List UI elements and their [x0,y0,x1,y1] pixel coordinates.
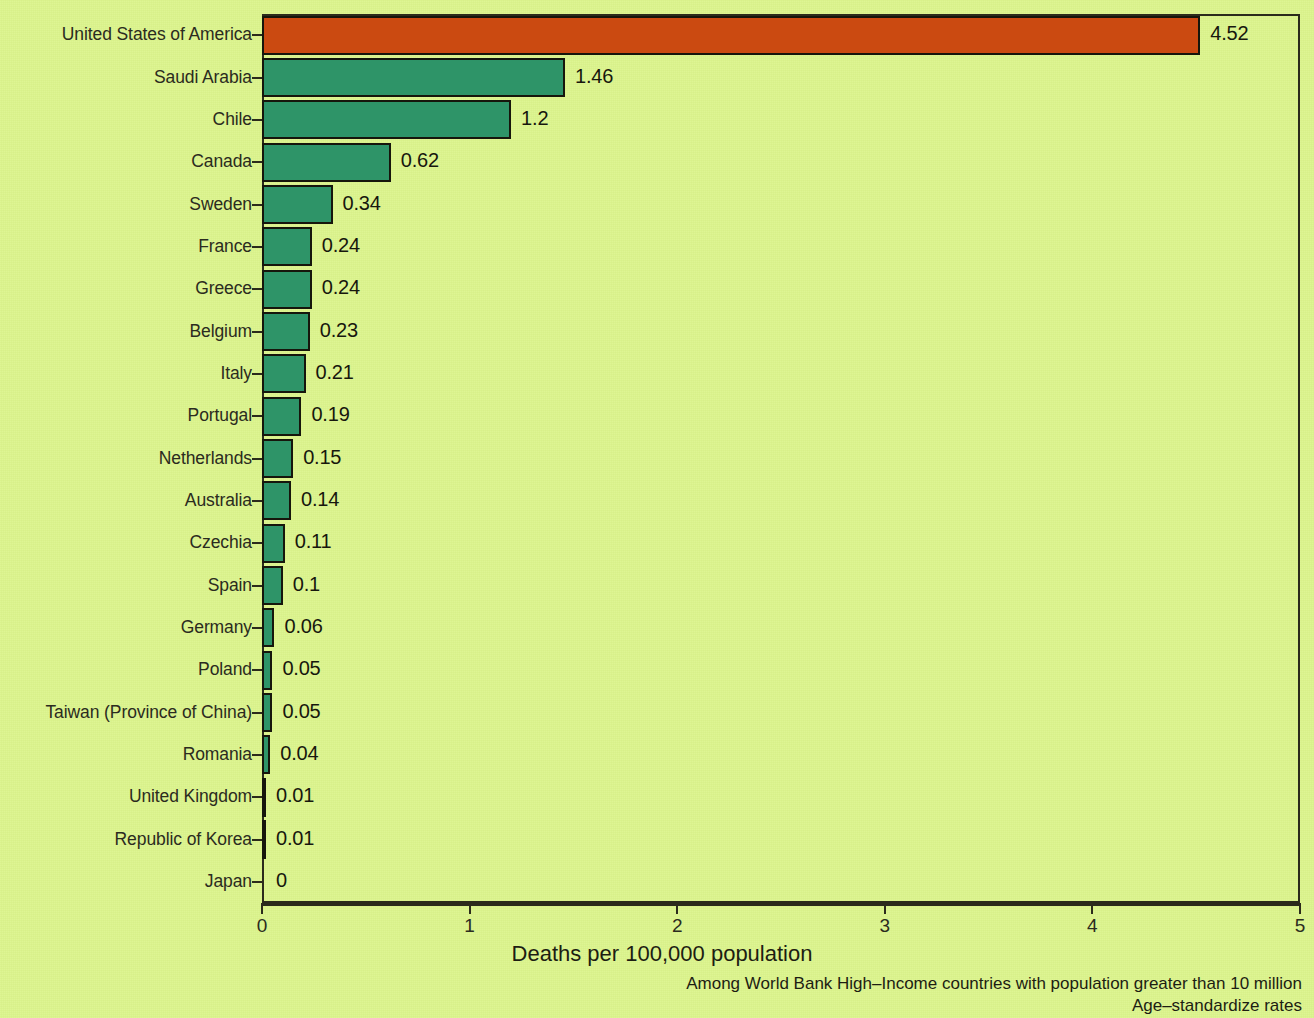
category-label: United States of America [0,24,252,45]
category-label: Australia [0,490,252,511]
y-axis-tick [252,881,262,883]
y-axis-tick [252,373,262,375]
bar[interactable] [262,185,333,224]
bar[interactable] [262,820,266,859]
y-axis-tick [252,542,262,544]
bar[interactable] [262,270,312,309]
x-axis-tick-label: 4 [1087,915,1098,937]
x-axis-title: Deaths per 100,000 population [0,941,1314,967]
y-axis-tick [252,500,262,502]
x-axis-tick [676,903,678,914]
bar-value-label: 1.2 [521,107,548,130]
category-label: Japan [0,871,252,892]
x-axis-tick-label: 1 [464,915,475,937]
chart-title [0,0,1314,4]
category-label: Saudi Arabia [0,67,252,88]
bar-value-label: 0.01 [276,827,314,850]
bar[interactable] [262,524,285,563]
x-axis-tick [1299,903,1301,914]
bar-value-label: 1.46 [575,65,613,88]
bar[interactable] [262,100,511,139]
category-label: Sweden [0,194,252,215]
bar-rows-container: United States of America4.52Saudi Arabia… [0,14,1314,903]
bar-value-label: 0.23 [320,319,358,342]
category-label: Greece [0,278,252,299]
y-axis-tick [252,415,262,417]
bar[interactable] [262,143,391,182]
footnote-age-standardized: Age–standardize rates [1132,996,1302,1016]
bar[interactable] [262,651,272,690]
category-label: Romania [0,744,252,765]
bar[interactable] [262,312,310,351]
x-axis-tick-label: 2 [672,915,683,937]
bar[interactable] [262,566,283,605]
category-label: Canada [0,151,252,172]
y-axis-tick [252,246,262,248]
y-axis-tick [252,712,262,714]
chart-canvas: United States of America4.52Saudi Arabia… [0,0,1314,1018]
category-label: Czechia [0,532,252,553]
bar-highlight[interactable] [262,16,1200,55]
bar-value-label: 0.06 [284,615,322,638]
bar-value-label: 0.62 [401,149,439,172]
bar[interactable] [262,735,270,774]
bar[interactable] [262,439,293,478]
y-axis-tick [252,161,262,163]
x-axis-tick-label: 0 [257,915,268,937]
footnote-population-scope: Among World Bank High–Income countries w… [686,974,1302,994]
bar[interactable] [262,608,274,647]
bar[interactable] [262,693,272,732]
y-axis-tick [252,839,262,841]
bar-value-label: 0.24 [322,276,360,299]
bar-value-label: 0.19 [311,403,349,426]
bar-value-label: 0.01 [276,784,314,807]
category-label: Chile [0,109,252,130]
x-axis-tick [261,903,263,914]
category-label: Netherlands [0,448,252,469]
bar-value-label: 0.24 [322,234,360,257]
category-label: Spain [0,575,252,596]
category-label: Italy [0,363,252,384]
bar-value-label: 0.1 [293,573,320,596]
category-label: Portugal [0,405,252,426]
category-label: Poland [0,659,252,680]
bar[interactable] [262,58,565,97]
y-axis-tick [252,585,262,587]
y-axis-tick [252,627,262,629]
category-label: United Kingdom [0,786,252,807]
bar[interactable] [262,397,301,436]
bar-value-label: 0.11 [295,530,332,553]
bar[interactable] [262,227,312,266]
bar-value-label: 0.04 [280,742,318,765]
y-axis-tick [252,458,262,460]
category-label: Germany [0,617,252,638]
y-axis-tick [252,34,262,36]
x-axis-tick [469,903,471,914]
bar[interactable] [262,481,291,520]
category-label: Republic of Korea [0,829,252,850]
x-axis-tick-label: 5 [1295,915,1306,937]
bar-value-label: 0.15 [303,446,341,469]
y-axis-tick [252,669,262,671]
y-axis-tick [252,331,262,333]
bar[interactable] [262,354,306,393]
bar-value-label: 0.05 [282,657,320,680]
bar[interactable] [262,778,266,817]
bar-value-label: 0.34 [343,192,381,215]
y-axis-tick [252,77,262,79]
bar-value-label: 4.52 [1210,22,1248,45]
y-axis-tick [252,288,262,290]
x-axis-line [262,903,1300,906]
bar-value-label: 0.21 [316,361,354,384]
y-axis-tick [252,119,262,121]
x-axis-tick [884,903,886,914]
category-label: Belgium [0,321,252,342]
x-axis-tick [1091,903,1093,914]
y-axis-tick [252,204,262,206]
bar-value-label: 0.05 [282,700,320,723]
x-axis-tick-label: 3 [880,915,891,937]
bar-value-label: 0.14 [301,488,339,511]
category-label: Taiwan (Province of China) [0,702,252,723]
category-label: France [0,236,252,257]
y-axis-tick [252,796,262,798]
